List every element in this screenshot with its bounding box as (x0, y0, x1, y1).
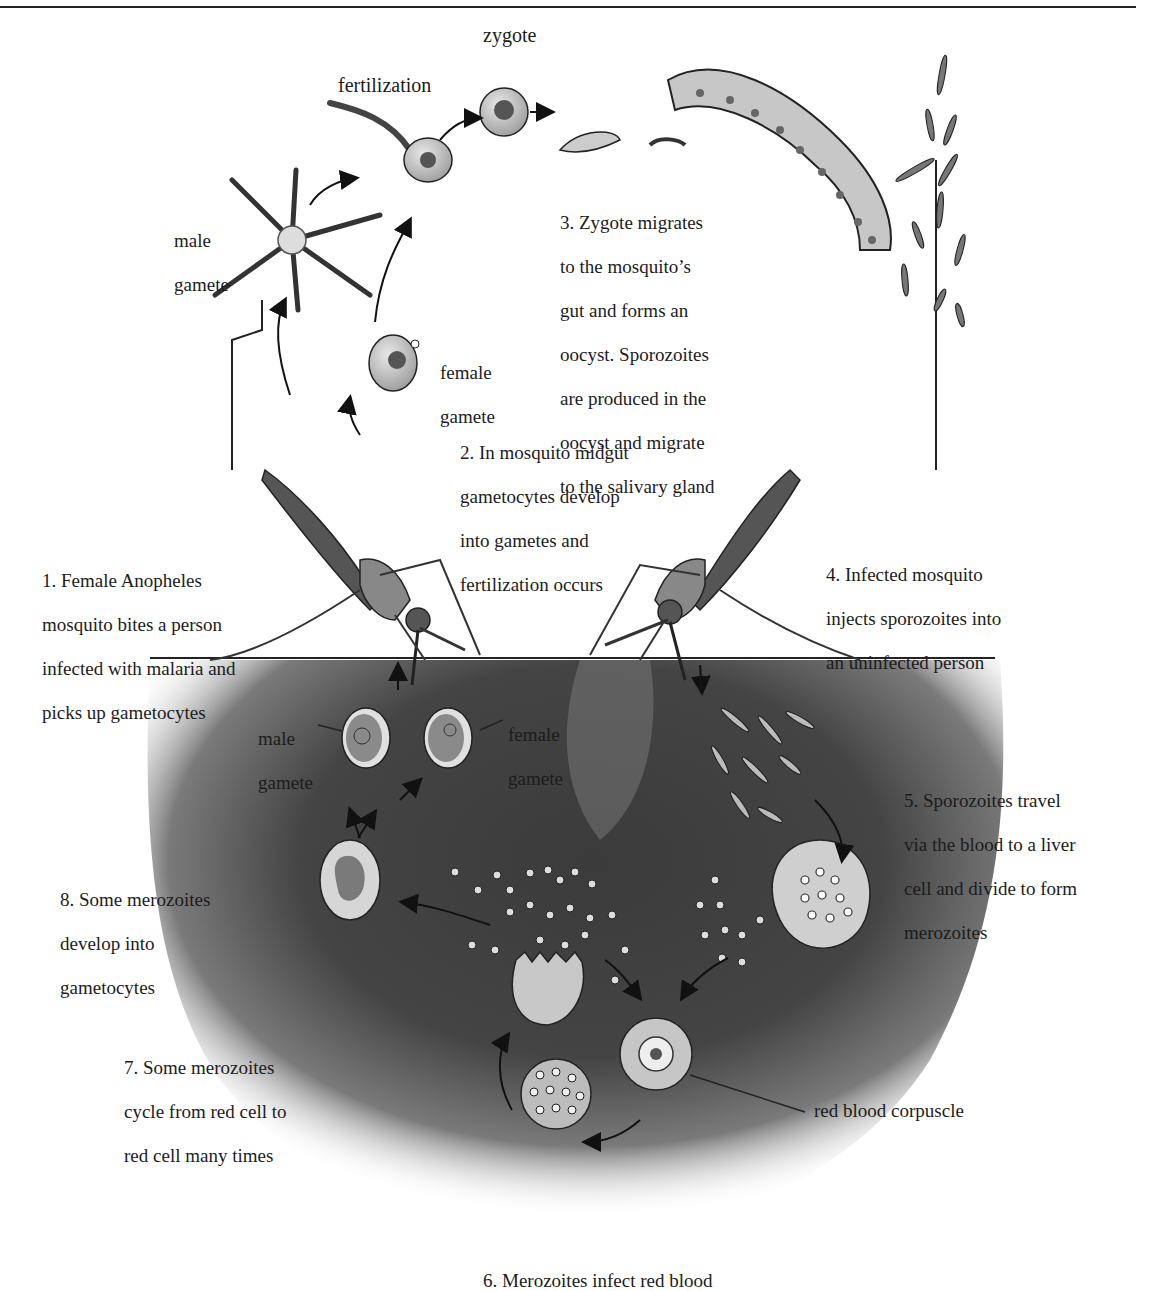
male-gamete-top-label: male gamete (174, 208, 229, 318)
merozoite-dot (491, 946, 499, 954)
step-5-caption: 5. Sporozoites travel via the blood to a… (904, 768, 1077, 966)
caption-line: into gametes and (460, 530, 629, 552)
caption-line: cell and divide to form (904, 878, 1077, 900)
caption-line: gametocytes (60, 977, 210, 999)
caption-line: 6. Merozoites infect red blood (483, 1270, 713, 1291)
merozoite-dot (506, 886, 514, 894)
merozoite-dot (711, 876, 719, 884)
merozoite-dot (562, 1088, 570, 1096)
male-gamete-blood-label: male gamete (258, 706, 313, 816)
caption-line: are produced in the (560, 388, 715, 410)
sporozoites-gut-icon (894, 55, 967, 328)
step-8-caption: 8. Some merozoites develop into gametocy… (60, 867, 210, 1021)
merozoite-dot (738, 958, 746, 966)
female-gamete-blood-icon (424, 708, 472, 768)
label-line: female (440, 362, 495, 384)
caption-line: 2. In mosquito midgut (460, 442, 629, 464)
caption-line: picks up gametocytes (42, 702, 236, 724)
caption-line: 3. Zygote migrates (560, 212, 715, 234)
merozoite-dot (493, 871, 501, 879)
merozoite-dot (576, 1092, 584, 1100)
female-gamete-blood-label: female gamete (508, 702, 563, 812)
mosquito-left-icon (210, 470, 480, 685)
merozoite-dot (451, 868, 459, 876)
caption-line: mosquito bites a person (42, 614, 236, 636)
caption-line: 8. Some merozoites (60, 889, 210, 911)
zygote-label: zygote (483, 24, 536, 46)
label-line: gamete (508, 768, 563, 790)
caption-line: an uninfected person (826, 652, 1001, 674)
merozoite-dot (546, 911, 554, 919)
merozoite-dot (561, 941, 569, 949)
merozoite-dot (552, 1068, 560, 1076)
step-2-caption: 2. In mosquito midgut gametocytes develo… (460, 420, 629, 618)
label-line: male (174, 230, 229, 252)
merozoite-dot (544, 866, 552, 874)
caption-line: merozoites (904, 922, 1077, 944)
caption-line: gut and forms an (560, 300, 715, 322)
merozoite-dot (571, 868, 579, 876)
caption-line: 1. Female Anopheles (42, 570, 236, 592)
merozoite-dot (621, 946, 629, 954)
fertilization-cell-icon (330, 103, 452, 182)
caption-line: develop into (60, 933, 210, 955)
merozoite-dot (586, 914, 594, 922)
merozoite-dot (756, 916, 764, 924)
merozoite-dot (536, 1071, 544, 1079)
merozoite-dot (506, 908, 514, 916)
merozoite-dot (721, 926, 729, 934)
step-1-caption: 1. Female Anopheles mosquito bites a per… (42, 548, 236, 746)
male-gamete-blood-icon (342, 708, 390, 768)
gametocyte-cell-icon (320, 840, 380, 920)
merozoite-dot (526, 869, 534, 877)
female-gamete-top-icon (369, 335, 419, 391)
merozoite-dot (530, 1088, 538, 1096)
merozoite-dot (546, 1086, 554, 1094)
caption-line: via the blood to a liver (904, 834, 1077, 856)
caption-line: fertilization occurs (460, 574, 629, 596)
merozoite-dot (536, 1106, 544, 1114)
merozoite-dot (716, 901, 724, 909)
male-gamete-star-icon (215, 170, 380, 310)
zygote-cell-icon (480, 88, 528, 136)
caption-line: 5. Sporozoites travel (904, 790, 1077, 812)
caption-line: infected with malaria and (42, 658, 236, 680)
merozoite-dot (701, 931, 709, 939)
merozoite-dot (738, 931, 746, 939)
caption-line: injects sporozoites into (826, 608, 1001, 630)
caption-line: red cell many times (124, 1145, 286, 1167)
merozoite-dot (588, 880, 596, 888)
caption-line: cycle from red cell to (124, 1101, 286, 1123)
merozoite-dot (468, 941, 476, 949)
caption-line: to the mosquito’s (560, 256, 715, 278)
schizont-rbc-icon (521, 1059, 591, 1129)
merozoite-dot (526, 901, 534, 909)
step-7-caption: 7. Some merozoites cycle from red cell t… (124, 1035, 286, 1189)
merozoite-dot (696, 901, 704, 909)
merozoite-dot (568, 1106, 576, 1114)
merozoite-dot (568, 1074, 576, 1082)
red-blood-corpuscle-icon (620, 1018, 692, 1090)
merozoite-dot (536, 936, 544, 944)
merozoite-dot (556, 876, 564, 884)
caption-line: oocyst. Sporozoites (560, 344, 715, 366)
transfer-line-left (232, 300, 262, 470)
merozoite-dot (581, 931, 589, 939)
ookinete-icon (560, 132, 685, 152)
label-line: gamete (174, 274, 229, 296)
merozoite-dot (608, 911, 616, 919)
merozoite-dot (566, 904, 574, 912)
caption-line: 7. Some merozoites (124, 1057, 286, 1079)
step-6-caption: 6. Merozoites infect red blood (483, 1248, 713, 1291)
merozoite-dot (611, 976, 619, 984)
merozoite-dot (474, 886, 482, 894)
caption-line: gametocytes develop (460, 486, 629, 508)
fertilization-label: fertilization (338, 74, 431, 96)
label-line: female (508, 724, 563, 746)
merozoite-dot (552, 1104, 560, 1112)
caption-line: 4. Infected mosquito (826, 564, 1001, 586)
step-4-caption: 4. Infected mosquito injects sporozoites… (826, 542, 1001, 696)
label-line: gamete (258, 772, 313, 794)
red-blood-corpuscle-label: red blood corpuscle (814, 1100, 964, 1122)
label-line: male (258, 728, 313, 750)
